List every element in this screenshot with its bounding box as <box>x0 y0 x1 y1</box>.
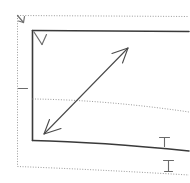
middle-dotted-curve <box>33 99 190 112</box>
bottom-solid-tick <box>160 138 170 147</box>
diagram-svg <box>0 0 190 183</box>
frame-corner-arrow-mark <box>18 16 25 23</box>
diagonal-double-arrow <box>44 48 128 134</box>
diagonal-arrow-shaft <box>44 48 128 134</box>
inner-box-bottom-edge <box>33 141 190 152</box>
frame-corner-arrow-stroke-b <box>24 17 25 23</box>
inner-solid-box <box>33 31 190 152</box>
outer-dotted-frame <box>18 16 190 176</box>
corner-chevron-mark <box>34 32 47 45</box>
bottom-dotted-tick <box>164 161 174 172</box>
inner-box-top-edge <box>33 31 190 32</box>
corner-chevron-stroke-b <box>42 35 47 45</box>
outer-frame-bottom-edge <box>18 167 190 176</box>
outer-frame-top-edge <box>18 16 190 17</box>
corner-chevron-stroke-a <box>34 32 42 45</box>
diagram-canvas <box>0 0 190 183</box>
